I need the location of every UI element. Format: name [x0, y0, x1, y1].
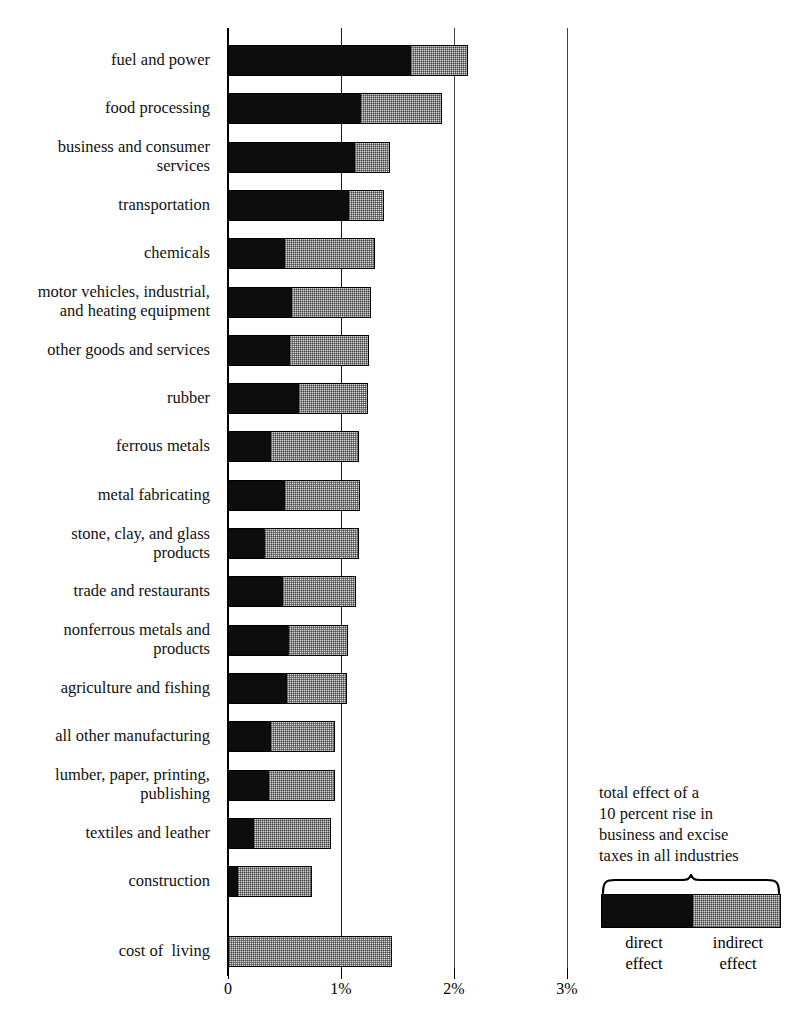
bar-row: transportation	[0, 190, 786, 221]
row-label: construction	[0, 871, 210, 890]
legend-label-line: effect	[693, 953, 783, 974]
row-label-line: ferrous metals	[0, 436, 210, 455]
bar-segment-direct	[228, 480, 285, 511]
bar-segment-direct	[228, 383, 299, 414]
row-label-line: trade and restaurants	[0, 581, 210, 600]
legend-label-indirect: indirecteffect	[693, 932, 783, 974]
row-label: trade and restaurants	[0, 581, 210, 600]
row-label: other goods and services	[0, 340, 210, 359]
bar-segment-indirect	[286, 673, 347, 704]
bar-segment-indirect	[288, 625, 348, 656]
bar-segment-indirect	[282, 576, 355, 607]
bar-row: business and consumerservices	[0, 142, 786, 173]
stacked-bar	[228, 142, 391, 173]
bar-segment-indirect	[291, 287, 370, 318]
bar-row: chemicals	[0, 238, 786, 269]
legend-swatch-indirect	[692, 894, 781, 928]
legend-label-direct: directeffect	[599, 932, 689, 974]
bar-chart: 01%2%3% fuel and powerfood processingbus…	[0, 0, 786, 1026]
row-label-line: services	[0, 156, 210, 175]
row-label-line: all other manufacturing	[0, 726, 210, 745]
bar-segment-direct	[228, 335, 290, 366]
row-label-line: and heating equipment	[0, 301, 210, 320]
bar-segment-indirect	[284, 480, 361, 511]
row-label: cost of living	[0, 941, 210, 960]
tick-mark	[228, 968, 229, 979]
bar-segment-direct	[228, 45, 411, 76]
row-label: food processing	[0, 98, 210, 117]
bar-row: agriculture and fishing	[0, 673, 786, 704]
legend-label-line: direct	[599, 932, 689, 953]
bar-row: rubber	[0, 383, 786, 414]
bar-row: food processing	[0, 93, 786, 124]
bar-segment-indirect	[268, 770, 336, 801]
legend-caption-line: taxes in all industries	[599, 845, 785, 866]
row-label: fuel and power	[0, 50, 210, 69]
row-label: business and consumerservices	[0, 137, 210, 175]
stacked-bar	[228, 721, 336, 752]
tick-label-1: 1%	[316, 980, 366, 998]
row-label: lumber, paper, printing,publishing	[0, 765, 210, 803]
legend-caption-line: total effect of a	[599, 782, 785, 803]
bar-segment-direct	[228, 93, 361, 124]
bar-segment-direct	[228, 287, 292, 318]
tick-label-2: 2%	[429, 980, 479, 998]
row-label: nonferrous metals andproducts	[0, 620, 210, 658]
bar-row: metal fabricating	[0, 480, 786, 511]
bar-segment-direct	[228, 142, 355, 173]
tick-label-0: 0	[203, 980, 253, 998]
row-label-line: lumber, paper, printing,	[0, 765, 210, 784]
bar-row: other goods and services	[0, 335, 786, 366]
row-label: motor vehicles, industrial,and heating e…	[0, 282, 210, 320]
bar-row: all other manufacturing	[0, 721, 786, 752]
legend-caption: total effect of a10 percent rise inbusin…	[599, 782, 785, 866]
stacked-bar	[228, 431, 360, 462]
stacked-bar	[228, 673, 348, 704]
row-label: rubber	[0, 388, 210, 407]
bar-segment-indirect	[410, 45, 468, 76]
legend-swatch-direct	[601, 894, 693, 928]
bar-segment-indirect	[264, 528, 359, 559]
bar-segment-direct	[228, 818, 254, 849]
row-label-line: food processing	[0, 98, 210, 117]
bar-segment-indirect	[253, 818, 331, 849]
legend-caption-line: 10 percent rise in	[599, 803, 785, 824]
row-label: chemicals	[0, 243, 210, 262]
row-label-line: publishing	[0, 784, 210, 803]
bar-row: ferrous metals	[0, 431, 786, 462]
bar-segment-indirect	[298, 383, 368, 414]
tick-mark	[341, 968, 342, 979]
bar-row: motor vehicles, industrial,and heating e…	[0, 287, 786, 318]
bar-row: fuel and power	[0, 45, 786, 76]
bar-segment-indirect	[289, 335, 369, 366]
row-label-line: motor vehicles, industrial,	[0, 282, 210, 301]
row-label: textiles and leather	[0, 823, 210, 842]
stacked-bar	[228, 45, 469, 76]
row-label-line: construction	[0, 871, 210, 890]
row-label-line: products	[0, 639, 210, 658]
row-label: agriculture and fishing	[0, 678, 210, 697]
bar-segment-indirect	[270, 431, 359, 462]
row-label: stone, clay, and glassproducts	[0, 524, 210, 562]
bar-segment-direct	[228, 190, 349, 221]
bar-row: trade and restaurants	[0, 576, 786, 607]
bar-segment-indirect	[354, 142, 390, 173]
stacked-bar	[228, 287, 372, 318]
row-label-line: products	[0, 543, 210, 562]
bar-segment-direct	[228, 625, 289, 656]
stacked-bar	[228, 93, 443, 124]
stacked-bar	[228, 866, 313, 897]
stacked-bar	[228, 528, 360, 559]
row-label-line: textiles and leather	[0, 823, 210, 842]
bar-segment-direct	[228, 238, 285, 269]
stacked-bar	[228, 190, 385, 221]
tick-mark	[454, 968, 455, 979]
stacked-bar	[228, 818, 332, 849]
row-label-line: other goods and services	[0, 340, 210, 359]
bar-segment-indirect	[228, 936, 392, 967]
bar-segment-indirect	[348, 190, 384, 221]
row-label-line: fuel and power	[0, 50, 210, 69]
stacked-bar	[228, 238, 376, 269]
row-label-line: business and consumer	[0, 137, 210, 156]
bar-segment-direct	[228, 431, 271, 462]
